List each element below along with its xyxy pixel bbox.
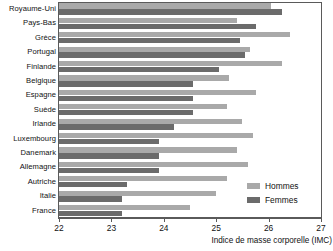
bar-femmes-allemagne <box>59 168 159 173</box>
chart-row: Allemagne <box>0 160 332 174</box>
legend-label-femmes: Femmes <box>265 195 298 205</box>
bar-femmes-espagne <box>59 96 193 101</box>
category-label-belgique: Belgique <box>0 74 56 88</box>
legend-swatch-hommes <box>247 183 260 189</box>
category-label-gr-ce: Grèce <box>0 31 56 45</box>
bar-femmes-pays-bas <box>59 24 256 29</box>
chart-row: Finlande <box>0 60 332 74</box>
x-tick-label-27: 27 <box>309 223 333 233</box>
chart-row: Grèce <box>0 31 332 45</box>
x-tick-26 <box>269 218 270 222</box>
bar-hommes-portugal <box>59 47 250 52</box>
category-label-luxembourg: Luxembourg <box>0 132 56 146</box>
bar-hommes-luxembourg <box>59 133 253 138</box>
bar-hommes-su-de <box>59 104 227 109</box>
category-label-royaume-uni: Royaume-Uni <box>0 2 56 16</box>
bar-hommes-espagne <box>59 90 256 95</box>
category-label-autriche: Autriche <box>0 175 56 189</box>
chart-row: Belgique <box>0 74 332 88</box>
x-axis-line <box>58 218 322 219</box>
category-label-danemark: Danemark <box>0 146 56 160</box>
bar-hommes-finlande <box>59 61 282 66</box>
category-label-portugal: Portugal <box>0 45 56 59</box>
x-tick-label-23: 23 <box>99 223 123 233</box>
chart-row: Irlande <box>0 117 332 131</box>
x-tick-label-26: 26 <box>257 223 281 233</box>
bar-femmes-france <box>59 211 122 216</box>
x-tick-25 <box>216 218 217 222</box>
chart-row: Royaume-Uni <box>0 2 332 16</box>
x-tick-label-25: 25 <box>204 223 228 233</box>
legend-item-hommes[interactable]: Hommes <box>247 180 299 192</box>
bar-hommes-irlande <box>59 119 242 124</box>
legend-label-hommes: Hommes <box>265 181 299 191</box>
bar-hommes-autriche <box>59 176 227 181</box>
chart-legend: HommesFemmes <box>247 180 299 208</box>
bar-hommes-danemark <box>59 147 237 152</box>
bar-femmes-finlande <box>59 67 219 72</box>
bar-hommes-gr-ce <box>59 32 290 37</box>
bar-femmes-gr-ce <box>59 38 240 43</box>
bar-hommes-allemagne <box>59 162 248 167</box>
bar-femmes-autriche <box>59 182 127 187</box>
category-label-pays-bas: Pays-Bas <box>0 16 56 30</box>
x-tick-label-22: 22 <box>47 223 71 233</box>
chart-row: Espagne <box>0 88 332 102</box>
category-label-espagne: Espagne <box>0 88 56 102</box>
chart-row: Luxembourg <box>0 132 332 146</box>
x-tick-27 <box>321 218 322 222</box>
legend-item-femmes[interactable]: Femmes <box>247 194 299 206</box>
bar-femmes-su-de <box>59 110 193 115</box>
chart-row: Pays-Bas <box>0 16 332 30</box>
bar-femmes-royaume-uni <box>59 9 282 14</box>
category-label-su-de: Suède <box>0 103 56 117</box>
bar-femmes-italie <box>59 196 122 201</box>
bar-hommes-belgique <box>59 75 229 80</box>
bar-femmes-belgique <box>59 81 193 86</box>
x-axis-title: Indice de masse corporelle (IMC) <box>192 236 332 245</box>
category-label-irlande: Irlande <box>0 117 56 131</box>
legend-swatch-femmes <box>247 197 260 203</box>
x-tick-23 <box>111 218 112 222</box>
bar-hommes-italie <box>59 191 216 196</box>
bar-femmes-portugal <box>59 52 245 57</box>
chart-row: Suède <box>0 103 332 117</box>
x-tick-22 <box>59 218 60 222</box>
chart-row: Portugal <box>0 45 332 59</box>
x-tick-label-24: 24 <box>152 223 176 233</box>
bar-hommes-pays-bas <box>59 18 237 23</box>
bar-femmes-luxembourg <box>59 139 159 144</box>
x-tick-24 <box>164 218 165 222</box>
category-label-france: France <box>0 204 56 218</box>
bar-femmes-irlande <box>59 124 174 129</box>
category-label-italie: Italie <box>0 189 56 203</box>
bar-hommes-royaume-uni <box>59 3 271 8</box>
bar-femmes-danemark <box>59 153 159 158</box>
category-label-finlande: Finlande <box>0 60 56 74</box>
chart-row: Danemark <box>0 146 332 160</box>
bar-hommes-france <box>59 205 190 210</box>
category-label-allemagne: Allemagne <box>0 160 56 174</box>
